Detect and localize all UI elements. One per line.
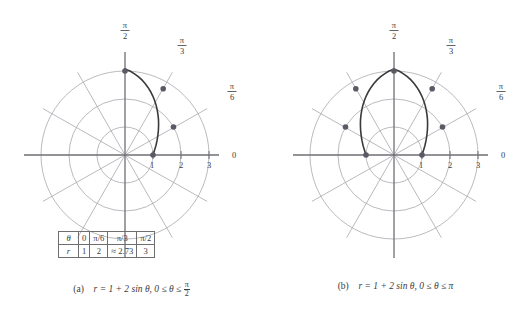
- angle-label-pi-over-6-den: 6: [230, 92, 234, 102]
- table-cell-theta-0: 0: [79, 232, 90, 245]
- angle-label-pi-over-3-num: π: [180, 35, 185, 45]
- panel-a-radial-tick-labels: 1 2 3: [150, 160, 211, 170]
- grid-spoke-300: [394, 155, 441, 238]
- data-point-theta-pi6: [440, 124, 446, 130]
- table-row-r: r 1 2 ≈ 2.73 3: [59, 245, 155, 258]
- grid-spoke-240: [78, 155, 125, 238]
- caption-b-tag: (b): [338, 281, 349, 291]
- data-point-theta-pi3: [429, 86, 435, 92]
- angle-label-pi-over-6-num: π: [499, 81, 504, 91]
- grid-spoke-210: [312, 155, 394, 201]
- angle-label-pi-over-3-den: 3: [180, 46, 184, 56]
- angle-label-pi-over-6-num: π: [230, 81, 235, 91]
- grid-spoke-330: [394, 155, 476, 201]
- panel-a-polar-plot: π 2 π 3 π 6 0 1 2 3: [0, 0, 263, 268]
- table-header-r: r: [59, 245, 79, 258]
- angle-label-pi-over-2-den: 2: [392, 31, 396, 41]
- data-point-theta-pi2: [122, 68, 128, 74]
- panel-b-radial-tick-labels: 1 2 3: [419, 160, 480, 170]
- theta-r-value-table: θ 0 π/6 π/3 π/2 r 1 2 ≈ 2.73 3: [58, 231, 155, 258]
- panel-a: π 2 π 3 π 6 0 1 2 3: [0, 0, 263, 312]
- table-header-theta: θ: [59, 232, 79, 245]
- panel-b-polar-plot: π 2 π 3 π 6 0 1 2 3: [264, 0, 527, 268]
- angle-label-pi-over-6: π 6: [228, 81, 237, 102]
- angle-label-pi-over-2: π 2: [121, 20, 130, 41]
- data-point-theta-pi: [363, 152, 369, 158]
- angle-label-pi-over-3: π 3: [178, 35, 187, 56]
- caption-b: (b) r = 1 + 2 sin θ, 0 ≤ θ ≤ π: [264, 281, 527, 291]
- panel-b-axes: [293, 52, 488, 258]
- data-point-theta-pi2: [391, 68, 397, 74]
- table-cell-r-pi2: 3: [137, 245, 155, 258]
- angle-label-pi-over-2: π 2: [390, 20, 399, 41]
- panel-b: π 2 π 3 π 6 0 1 2 3: [264, 0, 527, 312]
- table-cell-theta-pi3: π/3: [108, 232, 137, 245]
- grid-spoke-150: [43, 109, 125, 155]
- grid-spoke-240: [347, 155, 394, 238]
- table-row-theta: θ 0 π/6 π/3 π/2: [59, 232, 155, 245]
- radial-tick-label-2: 2: [179, 160, 183, 170]
- angle-label-pi-over-2-num: π: [123, 20, 128, 30]
- radial-tick-label-3: 3: [207, 160, 211, 170]
- caption-b-body: r = 1 + 2 sin θ, 0 ≤ θ ≤ π: [358, 281, 453, 291]
- grid-spoke-300: [125, 155, 172, 238]
- angle-label-pi-over-3-den: 3: [449, 46, 453, 56]
- grid-spoke-120: [347, 72, 394, 155]
- table-cell-theta-pi2: π/2: [137, 232, 155, 245]
- table-cell-theta-pi6: π/6: [90, 232, 108, 245]
- caption-a-body: r = 1 + 2 sin θ, 0 ≤ θ ≤: [94, 284, 182, 294]
- panel-a-axes: [24, 52, 219, 258]
- caption-a-tag: (a): [73, 284, 84, 294]
- polar-curve-figure: π 2 π 3 π 6 0 1 2 3: [0, 0, 527, 312]
- data-point-theta-pi3: [160, 86, 166, 92]
- radial-tick-label-3: 3: [476, 160, 480, 170]
- angle-label-pi-over-3: π 3: [447, 35, 456, 56]
- grid-spoke-210: [43, 155, 125, 201]
- grid-spoke-60: [125, 72, 172, 155]
- data-point-theta-2pi3: [353, 86, 359, 92]
- grid-spoke-30: [125, 109, 207, 155]
- angle-label-pi-over-2-den: 2: [123, 31, 127, 41]
- caption-a: (a) r = 1 + 2 sin θ, 0 ≤ θ ≤ π 2: [0, 281, 263, 298]
- grid-spoke-60: [394, 72, 441, 155]
- angle-label-pi-over-2-num: π: [392, 20, 397, 30]
- radial-tick-label-2: 2: [448, 160, 452, 170]
- angle-label-zero: 0: [501, 150, 505, 160]
- grid-spoke-120: [78, 72, 125, 155]
- angle-label-pi-over-6-den: 6: [499, 92, 503, 102]
- caption-a-fraction-denominator: 2: [184, 290, 190, 298]
- radial-tick-label-1: 1: [150, 160, 154, 170]
- table-cell-r-pi6: 2: [90, 245, 108, 258]
- data-point-theta-0: [419, 152, 425, 158]
- caption-a-fraction: π 2: [184, 281, 190, 298]
- grid-spoke-30: [394, 109, 476, 155]
- angle-label-pi-over-6: π 6: [497, 81, 506, 102]
- angle-label-zero: 0: [232, 150, 236, 160]
- data-point-theta-0: [150, 152, 156, 158]
- table-cell-r-pi3: ≈ 2.73: [108, 245, 137, 258]
- cardioid-arc-quarter: [125, 69, 159, 155]
- data-point-theta-5pi6: [343, 124, 349, 130]
- grid-spoke-150: [312, 109, 394, 155]
- angle-label-pi-over-3-num: π: [449, 35, 454, 45]
- data-point-theta-pi6: [171, 124, 177, 130]
- radial-tick-label-1: 1: [419, 160, 423, 170]
- table-cell-r-0: 1: [79, 245, 90, 258]
- grid-spoke-330: [125, 155, 207, 201]
